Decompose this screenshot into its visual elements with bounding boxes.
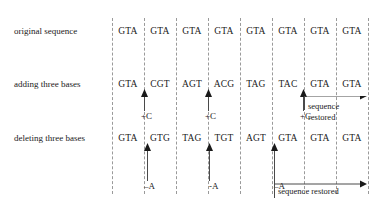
insertion-arrow-0 xyxy=(140,89,149,111)
row-label-deleting-three-bases: deleting three bases xyxy=(14,133,85,144)
insertion-arrow-1 xyxy=(204,89,213,111)
codon-cell: GTA xyxy=(176,25,208,37)
codon-divider-0 xyxy=(112,18,113,194)
row-label-adding-three-bases: adding three bases xyxy=(14,79,80,90)
codon-cell: GTA xyxy=(144,25,176,37)
restored-span-label-line2: restored xyxy=(308,112,339,123)
deletion-arrow-0 xyxy=(143,143,152,181)
codon-cell: GTA xyxy=(112,132,144,144)
codon-cell: GTA xyxy=(240,25,272,37)
figure-canvas: original sequence adding three bases del… xyxy=(0,0,373,204)
codon-divider-2 xyxy=(176,18,177,194)
insertion-label: +C xyxy=(141,111,152,122)
codon-divider-4 xyxy=(240,18,241,194)
row-label-original-sequence: original sequence xyxy=(14,26,77,37)
codon-cell: GTA xyxy=(304,78,336,90)
deletion-label: –A xyxy=(144,181,155,192)
deletion-label: -A xyxy=(209,181,219,192)
restored-span-label-1: sequence restored xyxy=(278,186,339,197)
codon-cell: GTA xyxy=(304,132,336,144)
codon-cell: GTA xyxy=(112,25,144,37)
restored-span-label-line1: sequence restored xyxy=(278,186,339,197)
codon-cell: GTA xyxy=(336,132,368,144)
restored-span-label-0: sequencerestored xyxy=(308,101,339,122)
codon-cell: GTA xyxy=(208,25,240,37)
insertion-label: +C xyxy=(205,111,216,122)
codon-cell: GTA xyxy=(336,78,368,90)
codon-cell: GTA xyxy=(304,25,336,37)
deletion-arrow-1 xyxy=(205,143,214,181)
codon-cell: TAG xyxy=(240,78,272,90)
codon-cell: GTA xyxy=(272,25,304,37)
codon-cell: AGT xyxy=(240,132,272,144)
restored-span-label-line1: sequence xyxy=(308,101,339,112)
codon-cell: GTA xyxy=(336,25,368,37)
codon-cell: TAG xyxy=(176,132,208,144)
